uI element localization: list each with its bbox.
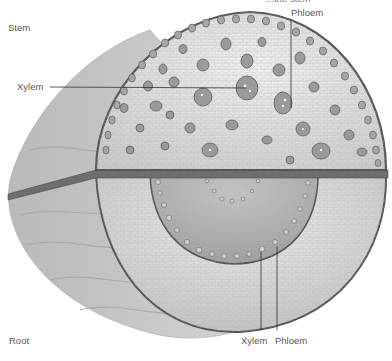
label-stem-xylem: Xylem [17, 82, 43, 92]
label-root-xylem: Xylem [241, 336, 267, 346]
label-stem: Stem [8, 23, 30, 33]
label-root: Root [9, 336, 29, 346]
label-stem-phloem: Phloem [291, 8, 323, 18]
cross-section-illustration [0, 0, 392, 361]
label-root-phloem: Phloem [275, 336, 307, 346]
title-fragment: ...the stem [266, 0, 310, 4]
stem-root-cross-section-diagram: ...the stem Stem Xylem Phloem Root Xylem… [0, 0, 392, 361]
